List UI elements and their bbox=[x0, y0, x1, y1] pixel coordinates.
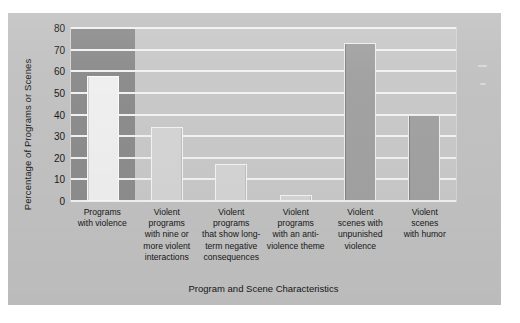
scan-artifact bbox=[478, 65, 487, 67]
x-category-label-line: more violent bbox=[136, 241, 199, 252]
x-category-label-line: violence bbox=[329, 241, 392, 252]
y-tick-label: 50 bbox=[54, 87, 65, 98]
bar bbox=[408, 115, 440, 202]
x-category-label-line: unpunished bbox=[329, 229, 392, 240]
x-category-label: Violentprogramsthat show long-term negat… bbox=[199, 207, 264, 281]
gridline bbox=[71, 92, 456, 94]
y-axis-title: Percentage of Programs or Scenes bbox=[22, 40, 33, 230]
y-tick-label: 60 bbox=[54, 66, 65, 77]
bar bbox=[280, 195, 312, 201]
y-tick-label: 10 bbox=[54, 174, 65, 185]
x-category-label: Violentprogramswith nine ormore violenti… bbox=[135, 207, 200, 281]
x-category-label-line: Programs bbox=[71, 207, 134, 218]
gridline bbox=[71, 135, 456, 137]
x-category-label-line: programs bbox=[136, 218, 199, 229]
y-tick-label: 30 bbox=[54, 131, 65, 142]
y-tick-label: 0 bbox=[59, 196, 65, 207]
x-category-label-line: with nine or bbox=[136, 229, 199, 240]
x-category-label: Violentprogramswith an anti-violence the… bbox=[264, 207, 329, 281]
figure-panel: Percentage of Programs or Scenes 0102030… bbox=[8, 13, 501, 305]
gridline bbox=[71, 200, 456, 202]
x-category-label: Violentscenes withunpunishedviolence bbox=[328, 207, 393, 281]
x-category-label: Violentsceneswith humor bbox=[393, 207, 458, 281]
x-category-label-line: consequences bbox=[200, 252, 263, 263]
x-category-label-line: Violent bbox=[329, 207, 392, 218]
gridline bbox=[71, 70, 456, 72]
x-category-label-line: that show long- bbox=[200, 229, 263, 240]
bar bbox=[215, 164, 247, 201]
bar bbox=[151, 127, 183, 201]
bar bbox=[87, 76, 119, 201]
x-axis-title: Program and Scene Characteristics bbox=[70, 283, 457, 294]
x-category-label-line: with an anti- bbox=[265, 229, 328, 240]
x-category-label-line: programs bbox=[200, 218, 263, 229]
x-category-label-line: violence theme bbox=[265, 241, 328, 252]
x-category-label-line: interactions bbox=[136, 252, 199, 263]
x-category-label-line: scenes bbox=[394, 218, 457, 229]
x-category-label-line: with violence bbox=[71, 218, 134, 229]
y-tick-label: 20 bbox=[54, 152, 65, 163]
gridline bbox=[71, 49, 456, 51]
plot-area: 01020304050607080 bbox=[70, 27, 457, 202]
x-category-label-line: Violent bbox=[265, 207, 328, 218]
x-category-label-line: Violent bbox=[394, 207, 457, 218]
scan-artifact bbox=[480, 83, 486, 85]
gridline bbox=[71, 27, 456, 29]
y-tick-label: 70 bbox=[54, 44, 65, 55]
x-category-label-line: Violent bbox=[136, 207, 199, 218]
gridline bbox=[71, 157, 456, 159]
y-tick-label: 80 bbox=[54, 23, 65, 34]
x-category-label: Programswith violence bbox=[70, 207, 135, 281]
x-category-label-line: term negative bbox=[200, 241, 263, 252]
x-axis-category-labels: Programswith violenceViolentprogramswith… bbox=[70, 207, 457, 281]
x-category-label-line: programs bbox=[265, 218, 328, 229]
x-category-label-line: Violent bbox=[200, 207, 263, 218]
bar bbox=[344, 43, 376, 201]
x-category-label-line: scenes with bbox=[329, 218, 392, 229]
gridline bbox=[71, 114, 456, 116]
y-tick-label: 40 bbox=[54, 109, 65, 120]
gridline bbox=[71, 178, 456, 180]
x-category-label-line: with humor bbox=[394, 229, 457, 240]
